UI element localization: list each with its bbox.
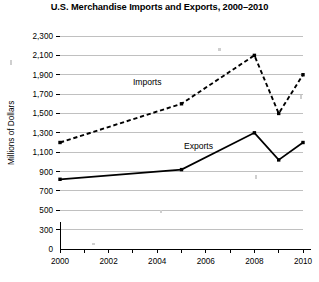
data-series	[58, 54, 304, 181]
y-axis-title: Millions of Dollars	[7, 101, 16, 165]
y-axis-ticks	[56, 36, 60, 230]
data-point-exports	[277, 158, 280, 161]
data-point-imports	[301, 73, 304, 76]
y-tick-label: 500	[39, 206, 53, 215]
y-tick-label: 1,900	[33, 71, 54, 80]
data-point-exports	[58, 178, 61, 181]
series-label-imports: Imports	[133, 77, 162, 87]
paper-speck	[300, 95, 302, 99]
x-tick-label: 2000	[51, 257, 70, 266]
series-line-imports	[60, 55, 303, 142]
x-axis-ticks	[60, 249, 303, 253]
gridlines	[60, 36, 303, 230]
data-point-exports	[301, 141, 304, 144]
paper-speck	[255, 175, 257, 179]
y-tick-label: 1,500	[33, 109, 54, 118]
chart-plot: 03005007009001,1001,3001,5001,7001,9002,…	[0, 0, 319, 282]
paper-speck	[92, 243, 95, 245]
paper-speck	[218, 48, 221, 51]
x-tick-label: 2006	[197, 257, 216, 266]
chart-figure: U.S. Merchandise Imports and Exports, 20…	[0, 0, 319, 282]
paper-speck	[10, 60, 12, 65]
x-tick-label: 2002	[99, 257, 118, 266]
y-tick-label: 1,300	[33, 129, 54, 138]
x-tick-label: 2010	[294, 257, 313, 266]
data-point-exports	[180, 168, 183, 171]
paper-speck	[160, 210, 162, 213]
y-tick-label: 900	[39, 168, 53, 177]
y-tick-label: 2,300	[33, 32, 54, 41]
x-tick-label: 2004	[148, 257, 167, 266]
series-label-exports: Exports	[184, 141, 213, 151]
data-point-imports	[58, 141, 61, 144]
data-point-exports	[253, 131, 256, 134]
data-point-imports	[180, 102, 183, 105]
y-tick-label: 2,100	[33, 51, 54, 60]
y-axis-tick-labels: 03005007009001,1001,3001,5001,7001,9002,…	[33, 32, 54, 254]
y-axis-title-group: Millions of Dollars	[7, 101, 16, 165]
y-tick-label: 700	[39, 187, 53, 196]
x-tick-label: 2008	[245, 257, 264, 266]
series-line-exports	[60, 133, 303, 179]
series-labels: ImportsExports	[133, 77, 213, 151]
y-tick-label: 1,700	[33, 90, 54, 99]
y-tick-label: 0	[48, 245, 53, 254]
data-point-imports	[253, 54, 256, 57]
axis-lines	[60, 222, 311, 249]
x-axis-tick-labels: 200020022004200620082010	[51, 257, 313, 266]
y-tick-label: 300	[39, 226, 53, 235]
y-tick-label: 1,100	[33, 148, 54, 157]
data-point-imports	[277, 112, 280, 115]
